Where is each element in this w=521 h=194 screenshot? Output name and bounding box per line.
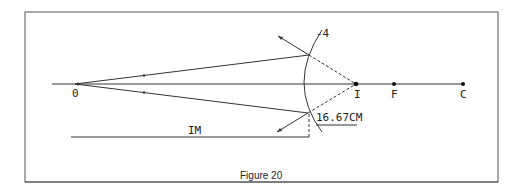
arrowhead-icon	[277, 128, 282, 132]
reflected-ray-upper	[278, 36, 309, 55]
virtual-ray-lower	[308, 84, 356, 113]
arrowhead-icon	[278, 36, 283, 40]
figure-caption: Figure 20	[240, 170, 283, 181]
center-label: C	[460, 88, 467, 101]
image-label: I	[354, 88, 361, 101]
virtual-ray-upper	[309, 55, 356, 84]
incident-ray-upper	[75, 55, 309, 84]
reflected-ray-lower	[277, 113, 308, 132]
mirror-power-label: -4	[316, 27, 330, 40]
image-point	[354, 82, 359, 87]
arrow-marker-icon	[143, 74, 145, 76]
center-point	[461, 82, 465, 86]
incident-ray-lower	[75, 84, 308, 113]
focus-label: F	[391, 88, 398, 101]
focus-point	[392, 82, 396, 86]
im-label: IM	[188, 124, 202, 137]
figure-frame	[25, 12, 498, 182]
arrow-marker-icon	[143, 91, 145, 93]
ray-diagram: 0 I F C -4 16.67CM IM Figure 20	[0, 0, 521, 194]
object-label: 0	[72, 87, 79, 100]
image-distance-label: 16.67CM	[316, 111, 363, 124]
object-point	[77, 83, 80, 86]
